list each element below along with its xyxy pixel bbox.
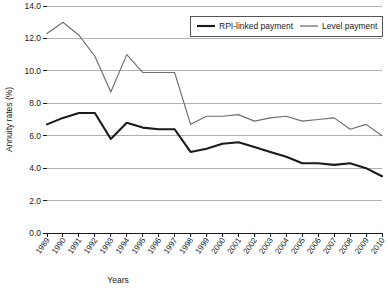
- chart-legend: RPI-linked payment Level payment: [190, 16, 382, 36]
- x-axis-title: Years: [107, 275, 128, 285]
- x-tick-label-2003: 2003: [257, 236, 275, 256]
- x-tick-label-1997: 1997: [162, 236, 180, 256]
- x-tick-label-2004: 2004: [273, 236, 291, 256]
- x-tick-label-2006: 2006: [305, 236, 323, 256]
- x-axis-tick-labels: 1989199019911992199319941995199619971998…: [34, 236, 387, 256]
- x-tick-label-1992: 1992: [82, 236, 100, 256]
- x-tick-label-1990: 1990: [50, 236, 68, 256]
- y-tick-label-4.0: 4.0: [29, 163, 41, 173]
- legend-label-rpi-linked-payment: RPI-linked payment: [219, 21, 294, 31]
- x-tick-label-1991: 1991: [66, 236, 84, 256]
- y-tick-label-2.0: 2.0: [29, 196, 41, 206]
- x-tick-label-1994: 1994: [114, 236, 132, 256]
- series-line-rpi-linked-payment: [47, 113, 382, 176]
- x-tick-label-2001: 2001: [225, 236, 243, 256]
- y-axis-title: Annuity rates (%): [4, 87, 14, 152]
- y-tick-label-0.0: 0.0: [29, 228, 41, 238]
- y-axis-tick-labels: 14.012.010.08.06.04.02.00.0: [24, 1, 47, 238]
- x-tick-label-1999: 1999: [194, 236, 212, 256]
- x-tick-label-1996: 1996: [146, 236, 164, 256]
- data-series: [47, 22, 382, 176]
- x-tick-label-2008: 2008: [337, 236, 355, 256]
- legend-label-level-payment: Level payment: [322, 21, 378, 31]
- x-tick-label-1998: 1998: [178, 236, 196, 256]
- y-tick-label-10.0: 10.0: [24, 66, 41, 76]
- y-tick-label-14.0: 14.0: [24, 1, 41, 11]
- x-tick-label-2007: 2007: [321, 236, 339, 256]
- x-tick-label-2009: 2009: [353, 236, 371, 256]
- chart-canvas: 14.012.010.08.06.04.02.00.0 198919901991…: [0, 0, 388, 288]
- y-tick-label-8.0: 8.0: [29, 98, 41, 108]
- x-tick-label-1989: 1989: [34, 236, 52, 256]
- x-tick-label-2010: 2010: [369, 236, 387, 256]
- x-tick-label-1993: 1993: [98, 236, 116, 256]
- x-tick-label-2002: 2002: [241, 236, 259, 256]
- x-tick-label-1995: 1995: [130, 236, 148, 256]
- x-tick-label-2005: 2005: [289, 236, 307, 256]
- y-tick-label-6.0: 6.0: [29, 131, 41, 141]
- x-tick-label-2000: 2000: [210, 236, 228, 256]
- annuity-rates-line-chart: 14.012.010.08.06.04.02.00.0 198919901991…: [0, 0, 388, 288]
- y-tick-label-12.0: 12.0: [24, 33, 41, 43]
